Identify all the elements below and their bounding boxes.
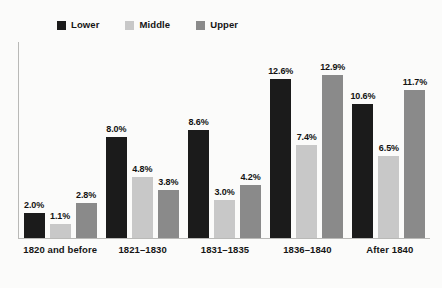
x-axis-line	[18, 238, 430, 239]
bar-lower[interactable]: 10.6%	[352, 42, 373, 238]
bar-value-label: 2.0%	[24, 201, 44, 210]
x-axis-tick-label: 1820 and before	[19, 244, 101, 255]
bar-value-label: 3.8%	[158, 178, 178, 187]
bar-rect[interactable]	[404, 90, 425, 238]
bar-group: 8.6%3.0%4.2%	[183, 42, 265, 238]
bar-rect[interactable]	[76, 203, 97, 238]
legend-label-upper: Upper	[210, 20, 238, 30]
bar-lower[interactable]: 12.6%	[270, 42, 291, 238]
bar-value-label: 8.6%	[188, 118, 208, 127]
bar-lower[interactable]: 2.0%	[24, 42, 45, 238]
bar-upper[interactable]: 2.8%	[76, 42, 97, 238]
bar-middle[interactable]: 7.4%	[296, 42, 317, 238]
bar-middle[interactable]: 4.8%	[132, 42, 153, 238]
bar-group: 2.0%1.1%2.8%	[19, 42, 101, 238]
bar-middle[interactable]: 3.0%	[214, 42, 235, 238]
chart-legend: Lower Middle Upper	[57, 18, 238, 32]
legend-label-middle: Middle	[139, 20, 170, 30]
legend-item-lower: Lower	[57, 20, 99, 30]
bar-rect[interactable]	[24, 213, 45, 238]
bar-value-label: 7.4%	[297, 133, 317, 142]
bar-value-label: 4.8%	[132, 165, 152, 174]
bar-middle[interactable]: 6.5%	[378, 42, 399, 238]
x-axis-tick-label: 1821–1830	[101, 244, 183, 255]
bar-rect[interactable]	[106, 137, 127, 238]
bar-lower[interactable]: 8.6%	[188, 42, 209, 238]
bar-rect[interactable]	[188, 130, 209, 239]
x-axis-tick-labels: 1820 and before1821–18301831–18351836–18…	[19, 244, 431, 255]
bar-value-label: 11.7%	[403, 78, 428, 87]
legend-item-middle: Middle	[125, 20, 170, 30]
legend-label-lower: Lower	[71, 20, 99, 30]
bar-upper[interactable]: 4.2%	[240, 42, 261, 238]
bar-rect[interactable]	[158, 190, 179, 238]
bar-rect[interactable]	[240, 185, 261, 238]
bar-group: 12.6%7.4%12.9%	[266, 42, 348, 238]
bar-groups: 2.0%1.1%2.8%8.0%4.8%3.8%8.6%3.0%4.2%12.6…	[19, 42, 430, 238]
bar-middle[interactable]: 1.1%	[50, 42, 71, 238]
bar-rect[interactable]	[214, 200, 235, 238]
bar-rect[interactable]	[322, 75, 343, 238]
bar-value-label: 2.8%	[76, 191, 96, 200]
bar-rect[interactable]	[132, 177, 153, 238]
x-axis-tick-label: 1836–1840	[266, 244, 348, 255]
bar-value-label: 10.6%	[350, 92, 375, 101]
x-axis-tick-label: After 1840	[349, 244, 431, 255]
legend-swatch-upper-icon	[196, 21, 205, 30]
bar-rect[interactable]	[50, 224, 71, 238]
legend-item-upper: Upper	[196, 20, 238, 30]
x-axis-tick-label: 1831–1835	[184, 244, 266, 255]
bar-group: 8.0%4.8%3.8%	[101, 42, 183, 238]
bar-upper[interactable]: 3.8%	[158, 42, 179, 238]
plot-area: 2.0%1.1%2.8%8.0%4.8%3.8%8.6%3.0%4.2%12.6…	[18, 42, 430, 239]
bar-value-label: 12.6%	[268, 67, 293, 76]
bar-group: 10.6%6.5%11.7%	[348, 42, 430, 238]
bar-lower[interactable]: 8.0%	[106, 42, 127, 238]
legend-swatch-middle-icon	[125, 21, 134, 30]
bar-value-label: 12.9%	[320, 63, 345, 72]
bar-value-label: 8.0%	[106, 125, 126, 134]
legend-swatch-lower-icon	[57, 21, 66, 30]
bar-value-label: 4.2%	[240, 173, 260, 182]
bar-upper[interactable]: 11.7%	[404, 42, 425, 238]
bar-rect[interactable]	[378, 156, 399, 238]
bar-value-label: 6.5%	[379, 144, 399, 153]
bar-rect[interactable]	[296, 145, 317, 238]
bar-upper[interactable]: 12.9%	[322, 42, 343, 238]
bar-rect[interactable]	[270, 79, 291, 238]
bar-chart: Lower Middle Upper 2.0%1.1%2.8%8.0%4.8%3…	[0, 0, 442, 288]
bar-value-label: 3.0%	[214, 188, 234, 197]
bar-rect[interactable]	[352, 104, 373, 238]
bar-value-label: 1.1%	[50, 212, 70, 221]
